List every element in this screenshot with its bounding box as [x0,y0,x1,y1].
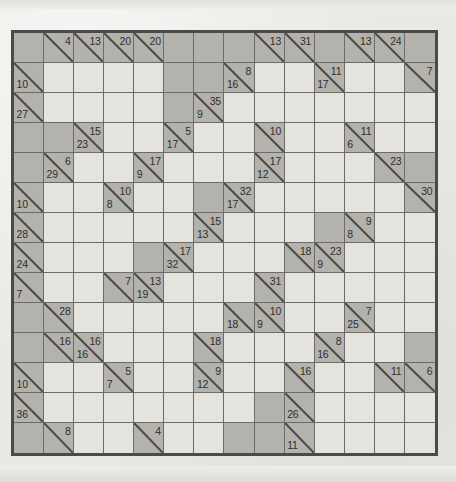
entry-cell[interactable] [44,393,74,423]
entry-cell[interactable] [164,273,194,303]
entry-cell[interactable] [285,273,315,303]
entry-cell[interactable] [345,183,375,213]
entry-cell[interactable] [104,423,134,453]
entry-cell[interactable] [74,213,104,243]
entry-cell[interactable] [44,183,74,213]
entry-cell[interactable] [44,93,74,123]
entry-cell[interactable] [104,123,134,153]
entry-cell[interactable] [74,153,104,183]
entry-cell[interactable] [164,303,194,333]
entry-cell[interactable] [285,153,315,183]
entry-cell[interactable] [74,303,104,333]
entry-cell[interactable] [375,63,405,93]
entry-cell[interactable] [74,393,104,423]
entry-cell[interactable] [315,393,345,423]
entry-cell[interactable] [345,153,375,183]
entry-cell[interactable] [164,423,194,453]
entry-cell[interactable] [345,243,375,273]
entry-cell[interactable] [194,123,224,153]
entry-cell[interactable] [405,243,435,273]
entry-cell[interactable] [255,93,285,123]
entry-cell[interactable] [315,363,345,393]
entry-cell[interactable] [345,63,375,93]
entry-cell[interactable] [164,153,194,183]
entry-cell[interactable] [375,303,405,333]
entry-cell[interactable] [134,363,164,393]
entry-cell[interactable] [285,63,315,93]
entry-cell[interactable] [315,183,345,213]
entry-cell[interactable] [104,213,134,243]
entry-cell[interactable] [224,363,254,393]
entry-cell[interactable] [74,363,104,393]
entry-cell[interactable] [164,333,194,363]
entry-cell[interactable] [224,153,254,183]
kakuro-grid[interactable]: 4132020133113241081611177273591523517101… [14,33,435,453]
entry-cell[interactable] [44,363,74,393]
entry-cell[interactable] [134,333,164,363]
entry-cell[interactable] [104,303,134,333]
entry-cell[interactable] [224,213,254,243]
entry-cell[interactable] [224,273,254,303]
entry-cell[interactable] [315,153,345,183]
entry-cell[interactable] [375,333,405,363]
entry-cell[interactable] [224,393,254,423]
entry-cell[interactable] [285,123,315,153]
entry-cell[interactable] [255,183,285,213]
entry-cell[interactable] [285,303,315,333]
entry-cell[interactable] [194,423,224,453]
entry-cell[interactable] [74,243,104,273]
entry-cell[interactable] [345,333,375,363]
entry-cell[interactable] [224,93,254,123]
entry-cell[interactable] [375,423,405,453]
entry-cell[interactable] [74,183,104,213]
entry-cell[interactable] [285,333,315,363]
entry-cell[interactable] [405,393,435,423]
entry-cell[interactable] [44,213,74,243]
entry-cell[interactable] [255,213,285,243]
entry-cell[interactable] [104,93,134,123]
entry-cell[interactable] [104,333,134,363]
entry-cell[interactable] [194,243,224,273]
entry-cell[interactable] [44,63,74,93]
entry-cell[interactable] [134,93,164,123]
entry-cell[interactable] [345,393,375,423]
entry-cell[interactable] [134,303,164,333]
entry-cell[interactable] [375,183,405,213]
entry-cell[interactable] [375,393,405,423]
entry-cell[interactable] [405,93,435,123]
entry-cell[interactable] [224,333,254,363]
entry-cell[interactable] [104,153,134,183]
entry-cell[interactable] [315,273,345,303]
entry-cell[interactable] [285,213,315,243]
entry-cell[interactable] [375,213,405,243]
entry-cell[interactable] [134,213,164,243]
entry-cell[interactable] [315,93,345,123]
entry-cell[interactable] [285,183,315,213]
entry-cell[interactable] [345,93,375,123]
entry-cell[interactable] [375,123,405,153]
entry-cell[interactable] [255,243,285,273]
entry-cell[interactable] [164,363,194,393]
entry-cell[interactable] [134,393,164,423]
entry-cell[interactable] [164,393,194,423]
entry-cell[interactable] [74,63,104,93]
entry-cell[interactable] [194,273,224,303]
entry-cell[interactable] [405,123,435,153]
entry-cell[interactable] [315,423,345,453]
entry-cell[interactable] [104,393,134,423]
entry-cell[interactable] [104,243,134,273]
entry-cell[interactable] [74,93,104,123]
entry-cell[interactable] [104,63,134,93]
entry-cell[interactable] [375,273,405,303]
entry-cell[interactable] [255,363,285,393]
entry-cell[interactable] [375,93,405,123]
entry-cell[interactable] [74,423,104,453]
entry-cell[interactable] [224,243,254,273]
entry-cell[interactable] [194,153,224,183]
entry-cell[interactable] [405,273,435,303]
entry-cell[interactable] [255,63,285,93]
entry-cell[interactable] [74,273,104,303]
entry-cell[interactable] [255,333,285,363]
entry-cell[interactable] [194,393,224,423]
entry-cell[interactable] [224,123,254,153]
